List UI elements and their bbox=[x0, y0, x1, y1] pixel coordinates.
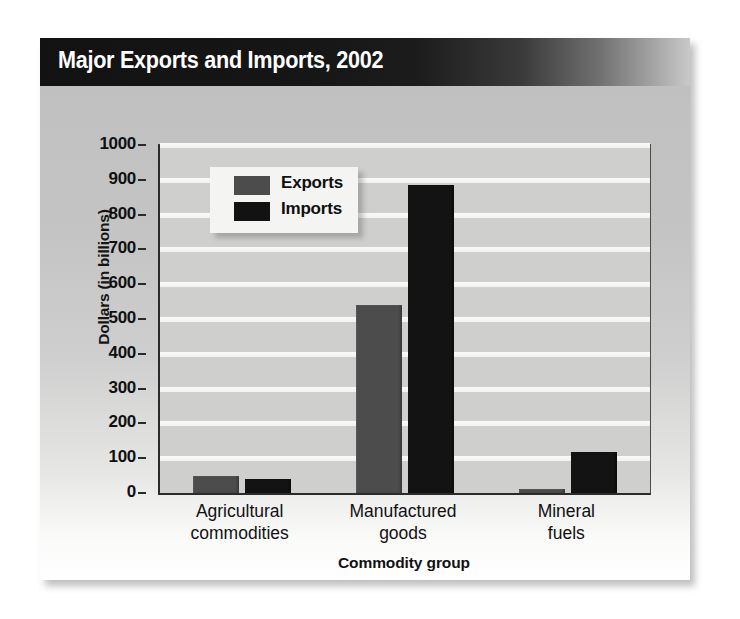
legend-swatch-exports bbox=[234, 176, 270, 195]
legend-label-imports: Imports bbox=[281, 199, 342, 219]
x-axis-label-line: Mineral bbox=[485, 500, 648, 522]
x-axis-title: Commodity group bbox=[158, 554, 650, 572]
plot-area: Exports Imports bbox=[158, 144, 651, 495]
y-tick-label: 100 bbox=[80, 447, 136, 467]
x-axis-label: Mineralfuels bbox=[485, 500, 648, 544]
y-tick-label: 500 bbox=[80, 308, 136, 328]
title-bar: Major Exports and Imports, 2002 bbox=[40, 38, 690, 86]
y-tick-label: 800 bbox=[80, 204, 136, 224]
y-axis-tick-labels: 01002003004005006007008009001000 bbox=[84, 144, 146, 492]
y-tick-label: 600 bbox=[80, 273, 136, 293]
y-tick-label: 300 bbox=[80, 378, 136, 398]
x-axis-label-line: goods bbox=[321, 522, 484, 544]
x-axis-label: Manufacturedgoods bbox=[321, 500, 484, 544]
x-axis-label-line: Manufactured bbox=[321, 500, 484, 522]
legend-label-exports: Exports bbox=[281, 173, 343, 193]
legend: Exports Imports bbox=[210, 167, 358, 233]
page-title: Major Exports and Imports, 2002 bbox=[58, 47, 383, 74]
bar-imports-2 bbox=[571, 452, 617, 493]
y-tick-label: 700 bbox=[80, 238, 136, 258]
chart-body: Dollars (in billions) 010020030040050060… bbox=[40, 86, 690, 580]
y-tick-label: 0 bbox=[80, 482, 136, 502]
legend-swatch-imports bbox=[234, 202, 270, 221]
y-tick-label: 400 bbox=[80, 343, 136, 363]
figure-card: Major Exports and Imports, 2002 Dollars … bbox=[40, 38, 690, 580]
x-axis-category-labels: AgriculturalcommoditiesManufacturedgoods… bbox=[158, 500, 650, 554]
x-axis-label: Agriculturalcommodities bbox=[158, 500, 321, 544]
x-axis-label-line: fuels bbox=[485, 522, 648, 544]
x-axis-label-line: commodities bbox=[158, 522, 321, 544]
bar-imports-1 bbox=[408, 185, 454, 493]
bar-exports-0 bbox=[193, 476, 239, 493]
y-tick-label: 200 bbox=[80, 412, 136, 432]
y-tick-label: 900 bbox=[80, 169, 136, 189]
bar-imports-0 bbox=[245, 479, 291, 493]
bar-exports-1 bbox=[356, 305, 402, 493]
bar-exports-2 bbox=[519, 489, 565, 493]
x-axis-label-line: Agricultural bbox=[158, 500, 321, 522]
y-tick-label: 1000 bbox=[80, 134, 136, 154]
